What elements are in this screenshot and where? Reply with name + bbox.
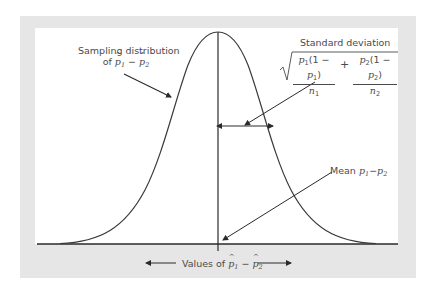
formula-term-1: p1(1 − p1) n1 <box>293 54 335 100</box>
formula-term-2: p2(1 − p2) n2 <box>353 54 397 100</box>
sampling-label-line2: of p1 − p2 <box>78 56 174 71</box>
mean-pointer-arrow <box>223 172 332 240</box>
standard-deviation-label: Standard deviation <box>300 37 390 48</box>
sampling-distribution-label: Sampling distribution of p1 − p2 <box>78 45 174 71</box>
mean-label: Mean p1−p2 <box>330 165 387 180</box>
values-axis-label: Values of p1 − p2 <box>182 258 263 273</box>
formula-plus: + <box>340 58 349 71</box>
sampling-label-line1: Sampling distribution <box>78 45 174 56</box>
sampling-pointer-arrow <box>124 74 171 97</box>
